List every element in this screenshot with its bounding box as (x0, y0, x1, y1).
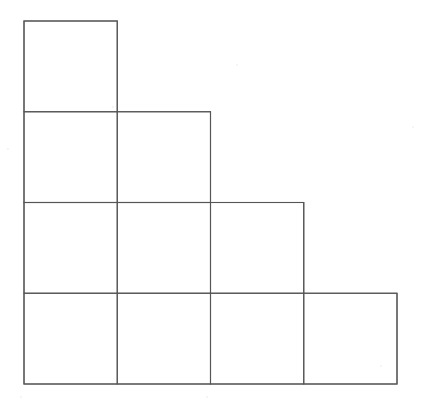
staircase-figure-canvas (0, 0, 424, 408)
figure-background (0, 0, 424, 408)
staircase-figure-svg (0, 0, 424, 408)
